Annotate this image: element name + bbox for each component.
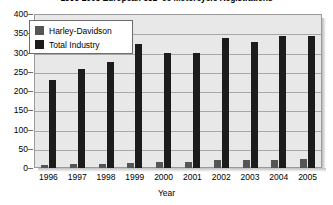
y-axis-tick-label: 200 [0,87,28,95]
bar-total-industry-2001 [193,53,200,169]
y-axis-tick-label: 100 [0,126,28,134]
bar-harley-davidson-2000 [156,162,163,168]
bar-total-industry-2000 [164,53,171,169]
chart-legend: Harley-Davidson Total Industry [29,20,133,54]
chart-container: 1996-2005 European 651+cc Motorcycle Reg… [0,0,333,205]
bar-harley-davidson-1997 [70,164,77,168]
y-axis-tick-label: 150 [0,106,28,114]
legend-label-total-industry: Total Industry [49,40,100,50]
bar-harley-davidson-2005 [300,159,307,168]
y-axis-tick-label: 50 [0,145,28,153]
x-axis-title: Year [0,188,333,198]
bar-total-industry-2004 [279,36,286,168]
legend-swatch-total-industry [35,40,44,49]
y-axis-tick-mark [28,110,33,111]
bar-harley-davidson-1999 [127,163,134,168]
y-axis-tick-label: 250 [0,68,28,76]
y-axis-tick-label: 400 [0,10,28,18]
bar-harley-davidson-2002 [214,160,221,168]
y-axis-tick-mark [28,130,33,131]
y-axis-tick-label: 0 [0,164,28,172]
y-axis-tick-mark [28,149,33,150]
bar-total-industry-2002 [222,38,229,168]
y-axis-tick-label: 350 [0,29,28,37]
bar-total-industry-1996 [49,80,56,168]
bar-harley-davidson-1998 [99,164,106,168]
y-axis-tick-mark [28,91,33,92]
plot-shadow-right [322,18,326,170]
legend-swatch-harley-davidson [35,26,44,35]
y-axis-tick-mark [28,168,33,169]
bar-total-industry-1998 [107,62,114,168]
bar-total-industry-2005 [308,36,315,168]
y-axis-tick-label: 300 [0,49,28,57]
bar-total-industry-1997 [78,69,85,168]
bar-harley-davidson-2003 [243,160,250,168]
bar-harley-davidson-1996 [41,165,48,168]
bar-total-industry-1999 [135,44,142,168]
chart-title: 1996-2005 European 651+cc Motorcycle Reg… [0,0,333,3]
legend-label-harley-davidson: Harley-Davidson [49,26,112,36]
y-axis-tick-mark [28,72,33,73]
y-axis-tick-mark [28,14,33,15]
legend-item-total-industry: Total Industry [35,38,100,51]
bar-total-industry-2003 [251,42,258,168]
legend-item-harley-davidson: Harley-Davidson [35,24,112,37]
bar-harley-davidson-2001 [185,162,192,168]
bar-harley-davidson-2004 [271,160,278,168]
x-axis-tick-label: 2005 [288,172,328,182]
